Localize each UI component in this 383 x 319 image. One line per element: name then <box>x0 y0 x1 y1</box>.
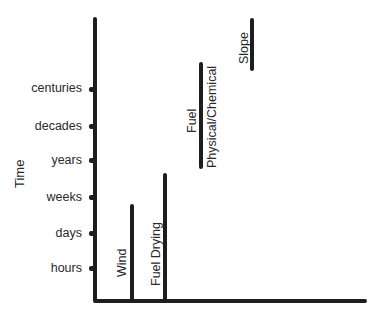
tick-label-decades: decades <box>12 119 82 133</box>
tick-years <box>89 158 95 163</box>
label-fuel: Fuel <box>185 109 199 133</box>
label-slope: Slope <box>237 32 251 64</box>
label-wind: Wind <box>115 249 129 277</box>
tick-decades <box>89 124 95 129</box>
tick-hours <box>89 266 95 271</box>
bar-fuel-drying <box>163 173 167 302</box>
tick-label-weeks: weeks <box>12 190 82 204</box>
tick-label-centuries: centuries <box>12 81 82 95</box>
label-fuel-drying: Fuel Drying <box>149 222 163 286</box>
tick-centuries <box>89 87 95 92</box>
tick-label-hours: hours <box>12 261 82 275</box>
bar-fuel-physical-chemical <box>199 62 203 169</box>
bar-wind <box>130 204 134 302</box>
tick-weeks <box>89 195 95 200</box>
x-axis-line <box>94 299 367 303</box>
label-physical-chemical: Physical/Chemical <box>205 66 219 168</box>
tick-label-years: years <box>12 153 82 167</box>
tick-label-days: days <box>12 226 82 240</box>
tick-days <box>89 231 95 236</box>
